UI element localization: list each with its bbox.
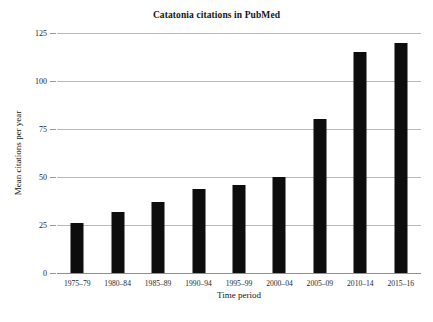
- x-tick-label-2010-14: 2010–14: [347, 279, 374, 288]
- bar-group: 1975–79: [57, 33, 97, 273]
- bar-1990-94[interactable]: [192, 189, 205, 273]
- y-tick-label-100: 100: [35, 77, 47, 86]
- bar-group: 2010–14: [340, 33, 380, 273]
- y-axis-title-text: Mean citations per year: [13, 111, 23, 196]
- x-tick-label-1980-84: 1980–84: [104, 279, 131, 288]
- bar-group: 2000–04: [259, 33, 299, 273]
- bar-2005-09[interactable]: [313, 119, 326, 273]
- y-tick-label-50: 50: [39, 173, 47, 182]
- y-tick-label-75: 75: [39, 125, 47, 134]
- x-tick-label-1990-94: 1990–94: [185, 279, 212, 288]
- y-tick-label-0: 0: [43, 269, 47, 278]
- x-tick-label-1975-79: 1975–79: [64, 279, 91, 288]
- gridline-0: [57, 273, 421, 274]
- y-tick-label-25: 25: [39, 221, 47, 230]
- y-tick-mark-0: [50, 273, 56, 274]
- y-tick-mark-100: [50, 81, 56, 82]
- chart-title: Catatonia citations in PubMed: [0, 10, 433, 20]
- y-tick-label-125: 125: [35, 29, 47, 38]
- figure-container: Catatonia citations in PubMed Mean citat…: [0, 0, 433, 322]
- y-tick-mark-125: [50, 33, 56, 34]
- bar-group: 1990–94: [178, 33, 218, 273]
- bar-1980-84[interactable]: [111, 212, 124, 273]
- bar-1985-89[interactable]: [152, 202, 165, 273]
- x-tick-label-2005-09: 2005–09: [307, 279, 334, 288]
- y-tick-mark-25: [50, 225, 56, 226]
- bar-group: 1995–99: [219, 33, 259, 273]
- y-axis-title: Mean citations per year: [11, 33, 25, 273]
- figure-caption: [6, 314, 426, 322]
- bar-group: 1980–84: [97, 33, 137, 273]
- bar-1995-99[interactable]: [232, 185, 245, 273]
- x-axis-title: Time period: [57, 290, 421, 300]
- bar-1975-79[interactable]: [71, 223, 84, 273]
- y-tick-mark-75: [50, 129, 56, 130]
- x-tick-label-2000-04: 2000–04: [266, 279, 293, 288]
- x-tick-label-1985-89: 1985–89: [145, 279, 172, 288]
- bar-group: 2005–09: [300, 33, 340, 273]
- x-tick-label-2015-16: 2015–16: [387, 279, 414, 288]
- y-tick-mark-50: [50, 177, 56, 178]
- bar-group: 1985–89: [138, 33, 178, 273]
- bars-layer: 1975–791980–841985–891990–941995–992000–…: [57, 33, 421, 273]
- bar-2010-14[interactable]: [354, 52, 367, 273]
- plot-area: 0255075100125 1975–791980–841985–891990–…: [57, 33, 421, 273]
- bar-2015-16[interactable]: [394, 43, 407, 273]
- bar-2000-04[interactable]: [273, 177, 286, 273]
- bar-group: 2015–16: [381, 33, 421, 273]
- x-tick-label-1995-99: 1995–99: [226, 279, 253, 288]
